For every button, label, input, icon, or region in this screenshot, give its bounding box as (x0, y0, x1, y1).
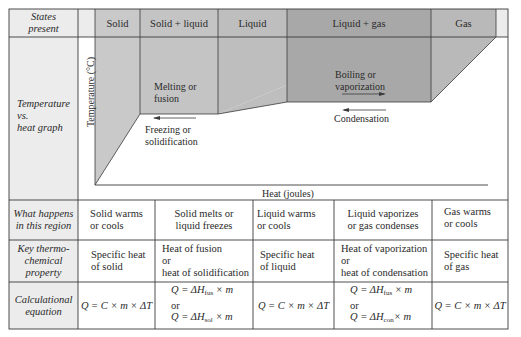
state-header-liquid-gas: Liquid + gas (287, 9, 431, 37)
boiling-label: Boiling or vaporization (335, 69, 385, 93)
what-happens-gas: Gas warmsor cools (432, 198, 508, 238)
row-label-states: States present (9, 11, 78, 35)
equation-fus-2: Q = ΔHfus × m (350, 284, 412, 300)
equation-liquid-gas: Q = ΔHfus × m or Q = ΔHcon× m (334, 282, 432, 329)
state-header-solid-liquid: Solid + liquid (140, 9, 218, 37)
equation-solid: Q = C × m × ΔT (78, 282, 155, 329)
state-header-liquid: Liquid (218, 9, 287, 37)
equation-solid-liquid: Q = ΔHfus × m or Q = ΔHsol × m (155, 282, 253, 329)
freezing-arrow (153, 116, 196, 120)
freezing-label: Freezing or solidification (145, 124, 198, 148)
row-label-key-property: Key thermo-chemicalproperty (10, 241, 77, 281)
key-property-solid-liquid: Heat of fusionorheat of solidification (155, 240, 253, 282)
row-label-calc-equation: Calculationalequation (10, 283, 77, 328)
condensation-arrow (342, 108, 386, 112)
label-column-bg (9, 9, 78, 329)
what-happens-solid: Solid warmsor cools (78, 200, 155, 240)
equation-gas: Q = C × m × ΔT (432, 282, 508, 329)
key-property-liquid-gas: Heat of vaporizationorheat of condensati… (334, 240, 432, 282)
what-happens-liquid-gas: Liquid vaporizesor gas condenses (334, 200, 432, 240)
equation-fus: Q = ΔHfus × m (171, 284, 233, 300)
key-property-gas: Specific heatof gas (432, 240, 508, 282)
key-property-liquid: Specific heatof liquid (253, 240, 334, 282)
region-solid (95, 37, 140, 185)
x-axis-label: Heat (joules) (262, 188, 314, 200)
what-happens-solid-liquid: Solid melts orliquid freezes (155, 200, 253, 240)
row-label-what-happens: What happensin this region (10, 201, 77, 239)
equation-sol: Q = ΔHsol × m (171, 311, 233, 327)
region-liquid-gas (287, 37, 431, 72)
key-property-solid: Specific heatof solid (78, 240, 155, 282)
row-label-graph: Temperature vs. heat graph (17, 98, 77, 134)
y-axis-label: Temperature (°C) (85, 42, 97, 142)
melting-label: Melting or fusion (154, 81, 197, 105)
condensation-label: Condensation (334, 113, 389, 125)
state-header-gas: Gas (431, 9, 496, 37)
state-header-solid: Solid (95, 9, 140, 37)
what-happens-liquid: Liquid warmsor cools (253, 200, 334, 240)
header-trailing-bg (496, 9, 508, 37)
equation-liquid: Q = C × m × ΔT (253, 282, 334, 329)
equation-con: Q = ΔHcon× m (350, 311, 412, 327)
axis-column-header-bg (78, 9, 95, 37)
